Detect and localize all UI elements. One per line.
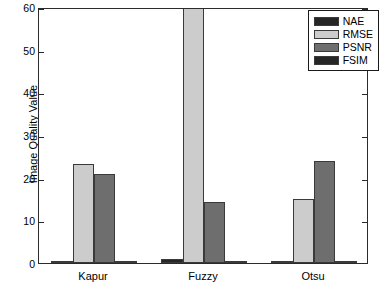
bar-nae-otsu [271,261,292,264]
legend-swatch-nae-icon [314,17,339,26]
y-axis-tick-mark [39,9,44,10]
y-axis-tick-mark-right [362,137,367,138]
y-axis-tick-label: 0 [0,258,35,270]
bar-nae-fuzzy [161,259,182,263]
y-axis-tick-mark [39,137,44,138]
legend-item-rmse: RMSE [314,28,373,40]
bar-psnr-fuzzy [204,202,225,263]
x-axis-tick-label-fuzzy: Fuzzy [148,270,258,282]
bar-fsim-otsu [335,261,356,264]
bar-fsim-fuzzy [225,261,246,264]
legend-item-psnr: PSNR [314,41,373,53]
y-axis-tick-mark [39,222,44,223]
bar-fsim-kapur [115,261,136,264]
legend-swatch-psnr-icon [314,43,339,52]
legend-label: NAE [343,16,365,27]
legend-swatch-rmse-icon [314,30,339,39]
y-axis-tick-label: 30 [0,130,35,142]
legend-swatch-fsim-icon [314,56,339,65]
legend-label: FSIM [343,55,368,66]
y-axis-tick-mark-right [362,222,367,223]
y-axis-tick-mark [39,180,44,181]
bar-rmse-kapur [73,164,94,263]
y-axis-tick-mark [39,94,44,95]
x-axis-tick-label-otsu: Otsu [258,270,368,282]
x-axis-tick-label-kapur: Kapur [38,270,148,282]
y-axis-tick-mark-right [362,180,367,181]
legend-label: PSNR [343,42,372,53]
y-axis-tick-mark [39,52,44,53]
bar-psnr-kapur [94,174,115,263]
legend: NAERMSEPSNRFSIM [308,10,379,71]
y-axis-tick-label: 50 [0,45,35,57]
bar-nae-kapur [51,261,72,264]
legend-item-fsim: FSIM [314,54,373,66]
y-axis-tick-label: 60 [0,2,35,14]
legend-item-nae: NAE [314,15,373,27]
bar-rmse-otsu [293,199,314,263]
y-axis-tick-label: 10 [0,215,35,227]
bar-chart-figure: Image Quality Value 0102030405060 KapurF… [0,0,391,296]
bar-psnr-otsu [314,161,335,263]
bar-rmse-fuzzy [183,8,204,263]
y-axis-tick-label: 20 [0,173,35,185]
y-axis-tick-mark-right [362,94,367,95]
y-axis-tick-label: 40 [0,87,35,99]
legend-label: RMSE [343,29,373,40]
